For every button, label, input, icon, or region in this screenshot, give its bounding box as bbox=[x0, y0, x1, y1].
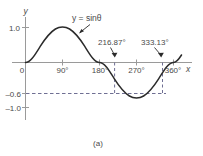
x-tick-label-360: 360° bbox=[165, 66, 182, 75]
annotation-333: 333.13° bbox=[141, 38, 169, 58]
annotation-216-label: 216.87° bbox=[98, 38, 126, 47]
curve-label-group: y = sinθ bbox=[72, 13, 102, 34]
y-tick-label-neg1.0: –1.0 bbox=[5, 104, 21, 113]
y-tick-label-neg0.6: –0.6 bbox=[5, 90, 21, 99]
annotation-333-arrow-icon bbox=[158, 53, 164, 58]
annotation-216-arrow-icon bbox=[112, 53, 118, 58]
x-axis-name: x bbox=[185, 64, 191, 74]
y-tick-label-1.0: 1.0 bbox=[9, 24, 21, 33]
annotation-216: 216.87° bbox=[98, 38, 126, 58]
figure-caption: (a) bbox=[93, 139, 103, 148]
sine-chart: y = sinθ 216.87° 333.13° 1.0 –0.6 –1.0 0… bbox=[0, 0, 203, 156]
figure-container: y = sinθ 216.87° 333.13° 1.0 –0.6 –1.0 0… bbox=[0, 0, 203, 156]
x-tick-label-0: 0 bbox=[20, 66, 25, 75]
y-axis-name: y bbox=[22, 6, 28, 16]
x-tick-label-270: 270° bbox=[128, 66, 145, 75]
annotation-333-label: 333.13° bbox=[141, 38, 169, 47]
x-tick-label-90: 90° bbox=[56, 66, 68, 75]
x-tick-label-180: 180° bbox=[92, 66, 109, 75]
curve-label: y = sinθ bbox=[72, 13, 102, 23]
